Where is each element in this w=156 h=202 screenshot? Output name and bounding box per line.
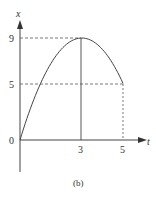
tick-label-origin: 0 bbox=[9, 135, 14, 146]
x-axis-label: t bbox=[147, 136, 150, 147]
tick-label-t3: 3 bbox=[78, 144, 83, 155]
tick-label-t5: 5 bbox=[120, 144, 125, 155]
figure-caption: (b) bbox=[73, 178, 84, 188]
chart: x t 0 5 9 3 5 (b) bbox=[0, 0, 156, 202]
tick-label-x5: 5 bbox=[9, 79, 14, 90]
curve-series bbox=[20, 38, 123, 140]
y-axis-arrow-icon bbox=[17, 20, 23, 29]
x-axis-arrow-icon bbox=[138, 137, 147, 143]
tick-label-x9: 9 bbox=[9, 33, 14, 44]
y-axis-label: x bbox=[15, 8, 21, 19]
